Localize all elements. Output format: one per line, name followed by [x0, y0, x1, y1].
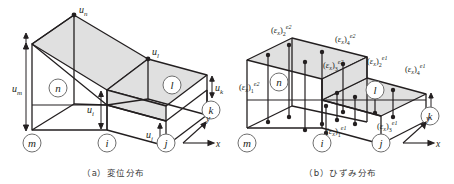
axis-y-line [183, 125, 203, 143]
element-label-n-b: n [276, 76, 282, 88]
caption-a-text: 変位分布 [107, 168, 145, 178]
arrowhead-uk-top [210, 76, 215, 81]
element-label-l-b: l [373, 84, 376, 96]
strain-label-eps-4-e1: (εx)4e1 [405, 63, 425, 76]
arrowhead-uk-bottom [210, 93, 215, 98]
element-circle-l: l [163, 76, 181, 94]
caption-a: （a）変位分布 [0, 166, 227, 178]
element-label-n: n [55, 82, 61, 94]
axis-x-label: x [215, 139, 221, 149]
panel-strain-distribution: n l m i j k [227, 0, 454, 184]
displacement-label-um: um [12, 83, 22, 97]
axis-y-label: y [205, 114, 211, 124]
element-circle-l-b: l [366, 81, 384, 99]
arrowhead-topleft [24, 33, 29, 38]
displacement-label-ul: ul [152, 46, 159, 60]
diagram-a-canvas: n l m i j k [0, 0, 227, 184]
strain-label-eps-1-e1: (εx)1e1 [326, 125, 346, 138]
panel-displacement-distribution: n l m i j k [0, 0, 227, 184]
arrowhead-um-bottom [23, 125, 28, 131]
axis-x-arrow-b [428, 141, 434, 146]
edge-m-to-back [32, 104, 74, 130]
strain-label-eps-2-e2: (εx)2e2 [271, 24, 291, 37]
node-circle-j: j [157, 134, 175, 152]
element-circle-n-b: n [270, 73, 288, 91]
axis-y-label-b: y [425, 114, 431, 124]
node-label-m: m [28, 137, 36, 149]
diagram-b-canvas: n l m i j k [227, 0, 454, 184]
node-circle-i: i [98, 134, 116, 152]
caption-b: （b）ひずみ分布 [227, 166, 454, 178]
displacement-label-uk: uk [215, 82, 224, 96]
arrowhead-ui-bottom [99, 124, 104, 130]
strain-label-eps-3-e1: (εx)3e1 [377, 120, 397, 133]
caption-b-text: ひずみ分布 [329, 168, 377, 178]
arrowhead-ui-top [99, 91, 104, 97]
node-label-i: i [105, 137, 108, 149]
node-label-m-b: m [243, 137, 251, 149]
figure-root: n l m i j k [0, 0, 454, 184]
arrowhead-uj-top [158, 123, 163, 128]
node-dot-n [72, 13, 77, 18]
node-circle-j-b: j [372, 134, 390, 152]
element-label-l: l [170, 79, 173, 91]
node-dot-l [146, 57, 151, 62]
caption-a-index: （a） [82, 168, 107, 178]
edge-e2-bottom-diag [247, 106, 292, 128]
node-circle-i-b: i [313, 134, 331, 152]
caption-b-index: （b） [304, 168, 329, 178]
node-circle-m: m [23, 134, 41, 152]
node-circle-m-b: m [238, 134, 256, 152]
element-circle-n: n [49, 79, 67, 97]
displacement-label-ui: ui [87, 104, 94, 118]
strain-label-eps-2-e1: (εx)2e1 [367, 55, 387, 68]
strain-label-eps-1-e2: (εx)1e2 [239, 81, 259, 94]
node-label-i-b: i [320, 137, 323, 149]
axis-x-arrow [208, 141, 214, 146]
displacement-label-un: un [79, 4, 88, 18]
axis-x-label-b: x [435, 139, 441, 149]
axes-group-a [183, 122, 214, 145]
node-circle-k: k [202, 101, 220, 119]
strain-label-eps-4-e2: (εx)4e2 [335, 33, 355, 46]
